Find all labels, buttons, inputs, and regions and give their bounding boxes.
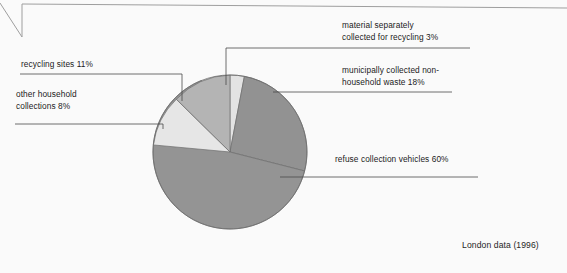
pie-chart-canvas — [0, 0, 567, 273]
top-border-rule — [22, 4, 567, 37]
pie-label-municipal-non-household-line1: municipally collected non- — [342, 65, 439, 75]
decorative-frame — [0, 3, 567, 37]
pie-label-other-household-collections-line1: other household — [16, 89, 77, 99]
leader-line-other-household-collections — [15, 124, 163, 129]
pie-label-municipal-non-household: municipally collected non- household was… — [342, 65, 439, 88]
pie-label-material-recycling-line2: collected for recycling 3% — [342, 32, 438, 44]
pie-label-material-recycling-line1: material separately — [342, 20, 414, 30]
pie-label-other-household-collections: other household collections 8% — [16, 89, 77, 112]
pie-label-material-recycling: material separately collected for recycl… — [342, 20, 438, 43]
pie-label-recycling-sites-line1: recycling sites 11% — [21, 59, 93, 69]
source-note: London data (1996) — [462, 240, 539, 250]
pie-label-recycling-sites: recycling sites 11% — [21, 59, 93, 71]
pie-label-municipal-non-household-line2: household waste 18% — [342, 77, 439, 89]
pie-label-refuse-collection-vehicles-line1: refuse collection vehicles 60% — [335, 154, 449, 164]
pie-label-refuse-collection-vehicles: refuse collection vehicles 60% — [335, 154, 449, 166]
pie-chart-figure: material separately collected for recycl… — [0, 0, 567, 273]
pie-slices — [153, 75, 307, 229]
pie-label-other-household-collections-line2: collections 8% — [16, 101, 77, 113]
corner-diagonal-line — [0, 3, 22, 37]
